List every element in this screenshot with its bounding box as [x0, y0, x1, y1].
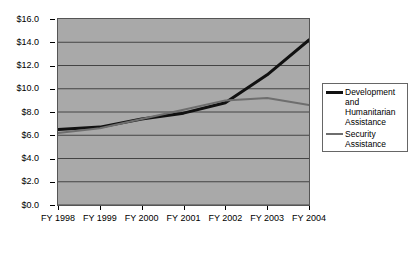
x-tick-mark-2 — [142, 206, 143, 210]
legend-label-security-assistance: Security Assistance — [345, 129, 405, 149]
x-tick-label-2: FY 2000 — [118, 214, 166, 223]
line-chart: $0.0$2.0$4.0$6.0$8.0$10.0$12.0$14.0$16.0… — [0, 0, 412, 253]
legend: Development and Humanitarian Assistance … — [322, 83, 408, 152]
x-tick-mark-5 — [267, 206, 268, 210]
legend-entry-0: Development and Humanitarian Assistance — [326, 87, 405, 127]
legend-swatch-security-assistance — [326, 133, 343, 135]
x-tick-label-1: FY 1999 — [76, 214, 124, 223]
x-tick-label-3: FY 2001 — [160, 214, 208, 223]
x-tick-mark-0 — [58, 206, 59, 210]
x-tick-label-5: FY 2003 — [243, 214, 291, 223]
x-tick-mark-1 — [100, 206, 101, 210]
x-tick-mark-4 — [225, 206, 226, 210]
legend-label-development-and-humanitarian-assistance: Development and Humanitarian Assistance — [345, 87, 405, 127]
x-tick-mark-3 — [184, 206, 185, 210]
legend-entry-1: Security Assistance — [326, 129, 405, 149]
x-tick-mark-6 — [309, 206, 310, 210]
x-tick-label-6: FY 2004 — [285, 214, 333, 223]
legend-swatch-development-and-humanitarian-assistance — [326, 91, 343, 94]
x-tick-label-0: FY 1998 — [34, 214, 82, 223]
x-tick-label-4: FY 2002 — [201, 214, 249, 223]
